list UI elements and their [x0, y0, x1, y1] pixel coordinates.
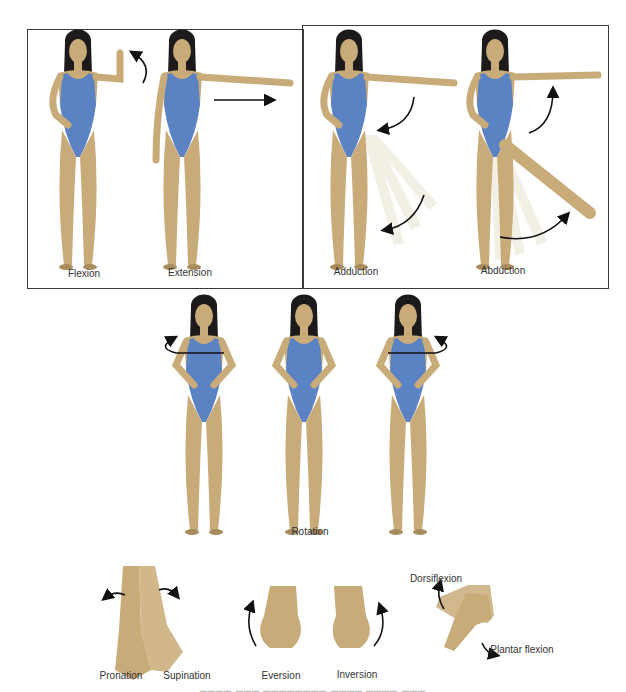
figure-rotation-neutral: [304, 310, 305, 311]
figure-pronation-supination-hands: [105, 560, 106, 561]
figure-eversion-foot: [262, 586, 263, 587]
figure-flexion: [78, 45, 79, 46]
figure-adduction: [349, 45, 350, 46]
label-pronation: Pronation: [100, 670, 143, 681]
label-dorsiflexion: Dorsiflexion: [410, 573, 462, 584]
figure-caption-cutoff: ▁▁▁▁ ▁▁▁ ▁▁▁▁▁▁▁▁ ▁▁▁▁ ▁▁▁▁ ▁▁▁: [200, 682, 426, 692]
figure-extension: [182, 45, 183, 46]
label-plantar-flexion: Plantar flexion: [490, 644, 553, 655]
label-flexion: Flexion: [68, 268, 100, 279]
figure-rotation-right: [408, 310, 409, 311]
figure-rotation-left: [204, 310, 205, 311]
figure-abduction: [495, 45, 496, 46]
label-inversion: Inversion: [337, 669, 378, 680]
label-supination: Supination: [163, 670, 210, 681]
label-eversion: Eversion: [262, 670, 301, 681]
label-rotation: Rotation: [291, 526, 328, 537]
figure-inversion-foot: [334, 586, 335, 587]
label-abduction: Abduction: [481, 265, 525, 276]
label-extension: Extension: [168, 267, 212, 278]
figure-dorsiflexion-plantar-foot: [436, 585, 437, 586]
label-adduction: Adduction: [334, 266, 378, 277]
